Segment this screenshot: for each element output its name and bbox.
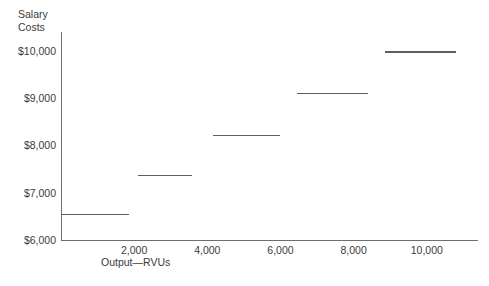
step-segment [297, 93, 368, 95]
step-segment [213, 135, 281, 137]
x-tick-label: 6,000 [267, 244, 293, 256]
step-cost-chart: Salary Costs $6,000$7,000$8,000$9,000$10… [0, 0, 489, 286]
x-tick-label: 2,000 [121, 244, 147, 256]
x-tick-label: 10,000 [411, 244, 443, 256]
step-segment [385, 51, 456, 53]
x-tick-label: 8,000 [340, 244, 366, 256]
x-tick-label: 4,000 [194, 244, 220, 256]
step-segment [138, 175, 192, 177]
x-axis-tick-labels: 2,0004,0006,0008,00010,000 [0, 0, 489, 286]
x-axis-title: Output—RVUs [101, 256, 170, 269]
step-segment [61, 214, 129, 216]
